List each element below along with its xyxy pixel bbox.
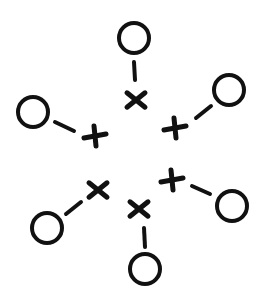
circle-icon [119, 23, 149, 53]
connector-line [144, 228, 145, 247]
circle-cross-diagram [0, 0, 260, 299]
connector-line [55, 122, 74, 131]
unit-bottom [130, 202, 160, 284]
connector-line [192, 186, 210, 194]
x-mark-icon [127, 93, 145, 107]
circle-icon [32, 213, 62, 243]
circle-icon [18, 97, 48, 127]
x-mark-icon [130, 202, 148, 216]
connector-line [134, 62, 135, 80]
circle-icon [217, 191, 247, 221]
connector-line [66, 202, 81, 214]
unit-upper-right [164, 75, 244, 138]
connector-line [196, 106, 211, 118]
circle-icon [214, 75, 244, 105]
plus-mark-icon [164, 118, 186, 138]
x-mark-icon [89, 183, 107, 197]
plus-mark-icon [161, 170, 183, 190]
unit-lower-left [32, 183, 107, 243]
plus-mark-icon [84, 126, 106, 146]
unit-right [161, 170, 247, 221]
unit-top [119, 23, 149, 107]
circle-icon [130, 254, 160, 284]
unit-left [18, 97, 106, 146]
